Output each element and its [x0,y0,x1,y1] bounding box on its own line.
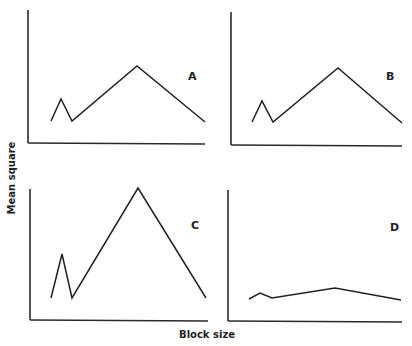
y-axis-title: Mean square [6,141,17,214]
panel-b-label: B [386,70,394,83]
panel-a-x-axis [28,143,205,144]
panel-d-label: D [390,221,399,234]
panel-c-line [51,188,206,298]
panel-b: B [231,12,402,146]
panel-a: A [28,10,205,144]
x-axis-title: Block size [179,329,235,340]
panel-b-line [252,68,402,123]
panel-c-x-axis [30,320,208,321]
panel-b-x-axis [231,145,402,146]
panel-a-line [51,66,205,122]
panel-d: D [228,190,402,322]
panel-c: C [30,188,208,321]
chart-figure: A B C D Mean square Block size [0,0,412,346]
panel-c-label: C [191,219,199,232]
panel-d-line [249,288,401,300]
panel-d-x-axis [228,321,402,322]
panel-a-label: A [188,70,197,83]
